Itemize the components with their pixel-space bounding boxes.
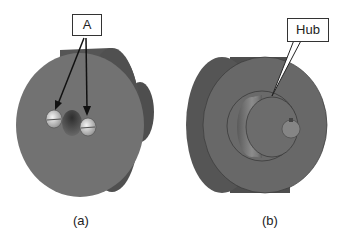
- pulley-a: [16, 38, 154, 197]
- pulley-b: [186, 35, 327, 193]
- callout-arrow: [86, 38, 87, 110]
- shaft-hole: [62, 110, 82, 136]
- callout-label-hub: Hub: [287, 18, 329, 42]
- caption-b: (b): [262, 213, 278, 228]
- callout-label-a: A: [72, 14, 102, 36]
- bore-icon: [282, 120, 300, 138]
- caption-a: (a): [73, 213, 89, 228]
